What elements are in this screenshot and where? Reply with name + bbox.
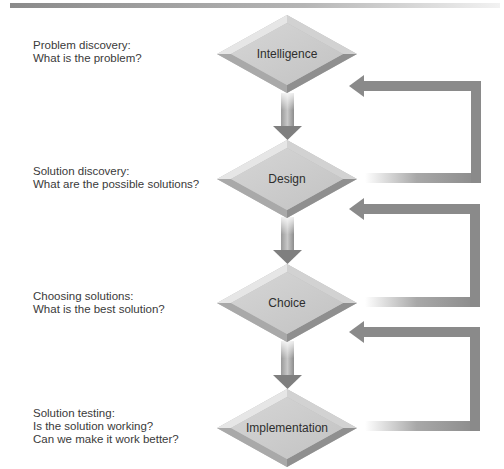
implementation-label: Implementation xyxy=(246,421,328,435)
choice-label: Choice xyxy=(268,296,306,310)
intelligence-diamond: Intelligence xyxy=(217,15,357,93)
caption-title: Solution testing: xyxy=(33,407,179,420)
down-arrow-design-choice xyxy=(273,217,302,264)
choice-diamond: Choice xyxy=(217,264,357,342)
caption-solution-discovery: Solution discovery: What are the possibl… xyxy=(33,165,199,191)
intelligence-label: Intelligence xyxy=(257,47,318,61)
header-bar xyxy=(10,3,500,8)
feedback-loop-design-to-intelligence xyxy=(349,75,481,183)
caption-choosing-solutions: Choosing solutions: What is the best sol… xyxy=(33,290,165,316)
caption-title: Problem discovery: xyxy=(33,39,142,52)
down-arrow-intelligence-design xyxy=(273,93,302,140)
flowchart-canvas: Intelligence Design Choice Implementatio… xyxy=(0,0,504,469)
caption-line: Is the solution working? xyxy=(33,420,179,433)
caption-title: Solution discovery: xyxy=(33,165,199,178)
feedback-loop-implementation-to-choice xyxy=(349,321,480,431)
caption-line: What is the problem? xyxy=(33,52,142,65)
design-label: Design xyxy=(268,172,305,186)
caption-problem-discovery: Problem discovery: What is the problem? xyxy=(33,39,142,65)
caption-solution-testing: Solution testing: Is the solution workin… xyxy=(33,407,179,446)
caption-line: Can we make it work better? xyxy=(33,433,179,446)
feedback-loop-choice-to-design xyxy=(349,198,480,307)
implementation-diamond: Implementation xyxy=(217,389,357,467)
caption-line: What is the best solution? xyxy=(33,303,165,316)
design-diamond: Design xyxy=(217,140,357,218)
caption-line: What are the possible solutions? xyxy=(33,178,199,191)
caption-title: Choosing solutions: xyxy=(33,290,165,303)
down-arrow-choice-implementation xyxy=(273,341,302,389)
